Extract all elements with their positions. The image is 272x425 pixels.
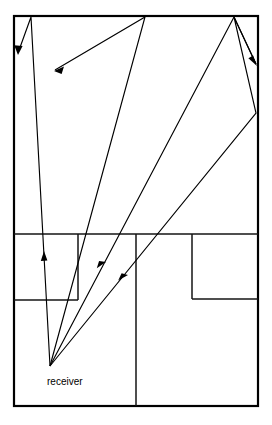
floorplan-svg: receiver bbox=[0, 0, 272, 425]
arrowhead-ray-1-terminal bbox=[14, 45, 22, 55]
arrowhead-ray-2-mid-upward bbox=[41, 251, 48, 261]
arrowhead-ray-3-terminal bbox=[248, 55, 257, 66]
arrowhead-ray-3-mid bbox=[97, 261, 106, 268]
ray-2-ceiling-bounce-to-upper-left bbox=[50, 17, 145, 366]
ray-4-right-wall-double-bounce bbox=[50, 17, 256, 366]
receiver-label: receiver bbox=[47, 376, 83, 387]
ray-1-left-wall-bounce bbox=[18, 17, 50, 366]
arrowhead-ray-4-mid bbox=[118, 273, 128, 280]
ray-paths-group bbox=[18, 17, 256, 366]
ray-3-ceiling-to-right-wall bbox=[50, 17, 256, 366]
ray-trace-figure: receiver bbox=[0, 0, 272, 425]
